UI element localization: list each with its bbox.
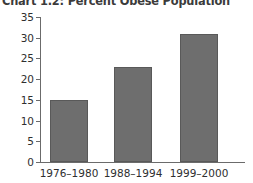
y-tick-label: 25 — [8, 53, 34, 63]
x-axis-label-3: 1999–2000 — [158, 167, 240, 179]
y-tick-label: 15 — [8, 95, 34, 105]
y-axis-tick-15: 15 — [4, 95, 34, 105]
y-axis-tick-30: 30 — [4, 33, 34, 43]
y-axis-tick-0: 0 — [4, 157, 34, 167]
y-axis-tick-mark — [36, 38, 40, 39]
chart-screenshot: Chart 1.2: Percent Obese Population 35 3… — [0, 0, 253, 183]
y-axis-tick-10: 10 — [4, 116, 34, 126]
y-axis-tick-mark — [36, 100, 40, 101]
plot-area: 35 30 25 20 15 10 5 0 — [0, 0, 253, 183]
y-axis-tick-mark — [36, 162, 40, 163]
y-tick-label: 35 — [8, 12, 34, 22]
y-axis-tick-mark — [36, 58, 40, 59]
bar-1999-2000 — [180, 34, 218, 162]
y-tick-label: 20 — [8, 74, 34, 84]
y-axis-tick-mark — [36, 79, 40, 80]
y-axis-tick-35: 35 — [4, 12, 34, 22]
bar-1976-1980 — [50, 100, 88, 162]
y-tick-label: 10 — [8, 116, 34, 126]
y-axis-tick-mark — [36, 121, 40, 122]
x-axis-line — [40, 162, 245, 163]
bar-1988-1994 — [114, 67, 152, 162]
y-axis-tick-20: 20 — [4, 74, 34, 84]
y-axis-tick-5: 5 — [4, 136, 34, 146]
y-axis-line — [40, 17, 41, 163]
y-axis-tick-mark — [36, 141, 40, 142]
y-tick-label: 5 — [8, 136, 34, 146]
y-axis-tick-mark — [36, 17, 40, 18]
y-axis-tick-25: 25 — [4, 53, 34, 63]
y-tick-label: 0 — [8, 157, 34, 167]
y-tick-label: 30 — [8, 33, 34, 43]
